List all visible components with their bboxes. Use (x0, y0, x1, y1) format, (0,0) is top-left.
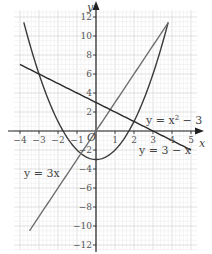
y-tick-label: 2 (86, 107, 92, 117)
x-axis-label: x (199, 137, 206, 150)
line-3x-equation-label: y = 3x (23, 167, 60, 180)
x-tick-label: 1 (112, 135, 118, 145)
y-axis-arrow-icon (93, 1, 100, 10)
x-tick-label: −2 (51, 135, 64, 145)
y-tick-label: −8 (79, 202, 93, 212)
graph-chart: −4−3−2−11234512108642−2−4−6−8−10−12 x y … (0, 0, 212, 254)
y-tick-label: −4 (79, 164, 93, 174)
y-axis-label: y (86, 1, 94, 14)
x-tick-label: −4 (13, 135, 27, 145)
x-tick-label: 2 (131, 135, 137, 145)
y-tick-label: 8 (86, 50, 92, 60)
y-tick-label: −6 (79, 183, 93, 193)
parabola-equation-label: y = x2 − 3 (145, 114, 202, 127)
y-tick-label: −12 (73, 240, 92, 250)
x-tick-label: −3 (32, 135, 46, 145)
origin-label: O (87, 131, 96, 144)
y-tick-label: −2 (79, 145, 92, 155)
y-tick-label: 6 (86, 69, 92, 79)
x-tick-label: −1 (70, 135, 83, 145)
y-tick-label: 10 (81, 31, 93, 41)
y-tick-label: −10 (73, 221, 92, 231)
line-3-minus-x-equation-label: y = 3 − x (138, 144, 192, 157)
y-tick-label: 4 (86, 88, 92, 98)
x-axis-arrow-icon (195, 128, 204, 135)
